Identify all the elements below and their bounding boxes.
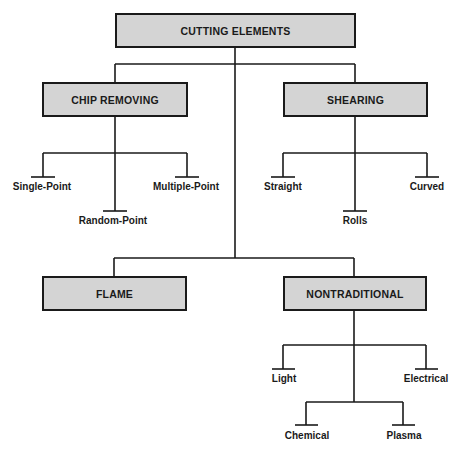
connector-lines [0, 0, 459, 453]
leaf-single-point: Single-Point [13, 181, 71, 192]
leaf-random-point: Random-Point [79, 215, 147, 226]
node-chip-removing: CHIP REMOVING [42, 82, 188, 117]
leaf-rolls: Rolls [343, 215, 367, 226]
leaf-curved: Curved [410, 181, 444, 192]
leaf-chemical: Chemical [285, 430, 329, 441]
leaf-light: Light [272, 373, 296, 384]
leaf-multiple-point: Multiple-Point [153, 181, 219, 192]
node-shearing: SHEARING [283, 82, 428, 117]
node-cutting-elements: CUTTING ELEMENTS [115, 13, 356, 48]
leaf-straight: Straight [264, 181, 302, 192]
node-flame: FLAME [42, 276, 187, 311]
leaf-electrical: Electrical [404, 373, 448, 384]
leaf-plasma: Plasma [386, 430, 421, 441]
node-nontraditional: NONTRADITIONAL [283, 276, 427, 311]
